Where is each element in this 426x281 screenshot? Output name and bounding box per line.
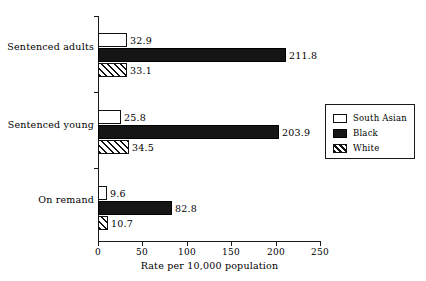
- bar-sentenced-young-white: [98, 140, 129, 154]
- bar-value-sentenced-young-white: 34.5: [132, 142, 154, 153]
- x-axis-tick-label-50: 50: [122, 247, 162, 258]
- legend-swatch-south-asian-icon: [333, 114, 347, 123]
- x-axis-line: [98, 241, 321, 242]
- bar-value-on-remand-black: 82.8: [175, 203, 197, 214]
- x-axis-tick-50: [142, 241, 143, 246]
- legend-swatch-white-icon: [333, 144, 347, 153]
- bar-sentenced-young-black: [98, 125, 279, 139]
- bar-sentenced-young-south-asian: [98, 110, 121, 124]
- bar-chart: 0 50 100 150 200 250 Rate per 10,000 pop…: [0, 0, 426, 281]
- bar-value-sentenced-adults-south-asian: 32.9: [130, 35, 152, 46]
- x-axis-tick-250: [320, 241, 321, 246]
- legend-item-white: White: [333, 141, 414, 155]
- category-label-sentenced-young: Sentenced young: [8, 119, 94, 130]
- legend-label-white: White: [353, 143, 379, 153]
- legend-item-south-asian: South Asian: [333, 111, 414, 125]
- x-axis-tick-150: [231, 241, 232, 246]
- y-axis-tick-sep-2: [94, 168, 99, 169]
- x-axis-tick-label-100: 100: [167, 247, 207, 258]
- y-axis-tick-sep-1: [94, 92, 99, 93]
- y-axis-tick-top: [94, 16, 99, 17]
- bar-value-on-remand-white: 10.7: [111, 218, 133, 229]
- legend-label-south-asian: South Asian: [353, 113, 407, 123]
- bar-on-remand-south-asian: [98, 186, 107, 200]
- x-axis-tick-200: [276, 241, 277, 246]
- bar-on-remand-black: [98, 201, 172, 215]
- x-axis-tick-label-250: 250: [300, 247, 340, 258]
- bar-value-sentenced-adults-white: 33.1: [130, 65, 152, 76]
- category-label-sentenced-adults: Sentenced adults: [7, 41, 94, 52]
- bar-sentenced-adults-black: [98, 48, 286, 62]
- x-axis-tick-label-0: 0: [78, 247, 118, 258]
- bar-value-on-remand-south-asian: 9.6: [110, 188, 126, 199]
- x-axis-tick-0: [98, 241, 99, 246]
- legend-item-black: Black: [333, 126, 414, 140]
- x-axis-tick-100: [187, 241, 188, 246]
- bar-value-sentenced-adults-black: 211.8: [289, 50, 317, 61]
- legend: South Asian Black White: [325, 104, 415, 159]
- bar-on-remand-white: [98, 216, 108, 230]
- category-label-on-remand: On remand: [38, 194, 94, 205]
- bar-value-sentenced-young-south-asian: 25.8: [124, 112, 146, 123]
- bar-value-sentenced-young-black: 203.9: [282, 127, 310, 138]
- x-axis-tick-label-150: 150: [211, 247, 251, 258]
- legend-swatch-black-icon: [333, 129, 347, 138]
- bar-sentenced-adults-south-asian: [98, 33, 127, 47]
- x-axis-tick-label-200: 200: [256, 247, 296, 258]
- bar-sentenced-adults-white: [98, 63, 127, 77]
- legend-label-black: Black: [353, 128, 378, 138]
- x-axis-title: Rate per 10,000 population: [98, 260, 321, 271]
